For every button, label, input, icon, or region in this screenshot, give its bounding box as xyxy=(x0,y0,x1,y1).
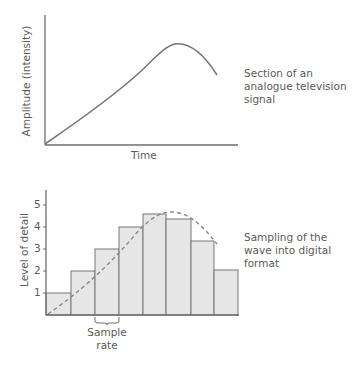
bar-2 xyxy=(71,271,95,315)
sample-rate-line-2: rate xyxy=(87,339,126,352)
bottom-caption: Sampling of the wave into digital format xyxy=(244,231,331,270)
diagram-canvas xyxy=(0,0,355,368)
bottom-caption-line-3: format xyxy=(244,257,331,270)
bottom-caption-line-2: wave into digital xyxy=(244,244,331,257)
top-caption-line-3: signal xyxy=(244,93,347,106)
bar-7 xyxy=(191,241,214,315)
bar-5 xyxy=(143,214,166,315)
top-caption-line-2: analogue television xyxy=(244,80,347,93)
top-chart xyxy=(45,15,238,145)
bar-4 xyxy=(119,227,143,315)
bottom-chart xyxy=(43,190,239,325)
tick-label-2: 2 xyxy=(34,264,41,276)
top-caption: Section of an analogue television signal xyxy=(244,67,347,106)
bar-6 xyxy=(166,219,191,315)
analogue-signal-curve xyxy=(45,44,217,144)
sample-rate-line-1: Sample xyxy=(87,326,126,339)
sample-rate-label: Sample rate xyxy=(87,326,126,352)
top-x-axis-label: Time xyxy=(131,149,157,161)
bottom-y-axis-label: Level of detail xyxy=(18,213,30,287)
sample-bars xyxy=(46,214,238,315)
bar-8 xyxy=(214,270,238,315)
bottom-caption-line-1: Sampling of the xyxy=(244,231,331,244)
tick-label-4: 4 xyxy=(34,220,41,232)
tick-label-1: 1 xyxy=(34,286,41,298)
sample-rate-bracket xyxy=(95,317,119,325)
bar-1 xyxy=(46,293,71,315)
tick-label-5: 5 xyxy=(34,198,41,210)
top-caption-line-1: Section of an xyxy=(244,67,347,80)
tick-label-3: 3 xyxy=(34,242,41,254)
top-y-axis-label: Amplitude (intensity) xyxy=(20,26,32,137)
bar-3 xyxy=(95,249,119,315)
